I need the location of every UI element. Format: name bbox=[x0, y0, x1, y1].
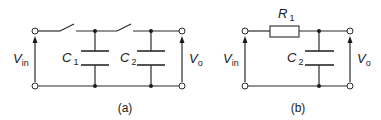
terminal-b-in-top bbox=[242, 28, 248, 34]
terminal-b-out-top bbox=[347, 28, 353, 34]
terminal-a-out-top bbox=[179, 28, 185, 34]
circuit-diagram: C1 C2 Vin Vo (a) R1 C2 Vin Vo (b) bbox=[0, 0, 381, 120]
label-vo-a: Vo bbox=[189, 51, 203, 68]
arrowhead-icon bbox=[243, 36, 248, 43]
terminal-a-in-top bbox=[32, 28, 38, 34]
label-vo-b: Vo bbox=[357, 51, 371, 68]
label-vin-a: Vin bbox=[13, 51, 29, 68]
junction-dot bbox=[93, 29, 97, 33]
label-r1: R1 bbox=[278, 6, 294, 23]
switch-2-blade bbox=[117, 24, 131, 31]
capacitor-c2-a bbox=[137, 31, 165, 86]
arrowhead-icon bbox=[348, 36, 353, 43]
terminal-a-in-bottom bbox=[32, 83, 38, 89]
terminal-b-in-bottom bbox=[242, 83, 248, 89]
capacitor-c2-b bbox=[305, 31, 334, 86]
junction-dot bbox=[317, 84, 321, 88]
junction-dot bbox=[317, 29, 321, 33]
terminal-a-out-bottom bbox=[179, 83, 185, 89]
junction-dot bbox=[93, 84, 97, 88]
label-c2-b: C2 bbox=[287, 50, 303, 67]
junction-dot bbox=[149, 29, 153, 33]
resistor-r1 bbox=[270, 26, 299, 37]
caption-a: (a) bbox=[118, 101, 133, 115]
arrowhead-icon bbox=[180, 36, 185, 43]
circuit-a: C1 C2 Vin Vo (a) bbox=[13, 24, 203, 115]
arrowhead-icon bbox=[33, 36, 38, 43]
capacitor-c1 bbox=[81, 31, 109, 86]
label-c2-a: C2 bbox=[120, 50, 136, 67]
label-c1: C1 bbox=[62, 50, 78, 67]
circuit-b: R1 C2 Vin Vo (b) bbox=[223, 6, 371, 115]
junction-dot bbox=[149, 84, 153, 88]
terminal-b-out-bottom bbox=[347, 83, 353, 89]
label-vin-b: Vin bbox=[223, 51, 239, 68]
switch-1-blade bbox=[60, 24, 74, 31]
caption-b: (b) bbox=[291, 101, 306, 115]
